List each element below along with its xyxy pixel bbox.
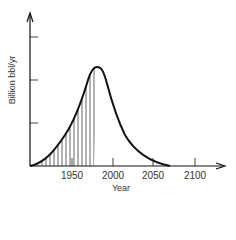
production-curve xyxy=(30,67,170,166)
x-tick-label: 2100 xyxy=(184,170,206,181)
x-ticks xyxy=(72,158,195,166)
x-tick-label: 1950 xyxy=(61,170,83,181)
y-axis-label: Billion bbl/yr xyxy=(7,56,17,105)
x-tick-label: 2000 xyxy=(102,170,124,181)
y-ticks xyxy=(30,37,38,123)
x-tick-label: 2050 xyxy=(142,170,164,181)
x-axis-label: Year xyxy=(112,183,130,193)
hatching xyxy=(34,60,94,166)
